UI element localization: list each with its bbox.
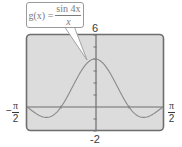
y-min-label: -2: [90, 134, 100, 145]
x-min-label: − π 2: [12, 101, 19, 124]
fraction-numerator: sin 4x: [55, 4, 81, 16]
y-max-label: 6: [92, 23, 98, 34]
x-max-label: π 2: [168, 101, 175, 124]
function-label-callout: g(x) = sin 4x x: [26, 2, 84, 28]
function-name: g(x) =: [29, 10, 54, 21]
fraction-denominator: x: [66, 16, 70, 27]
function-fraction: sin 4x x: [55, 4, 81, 27]
